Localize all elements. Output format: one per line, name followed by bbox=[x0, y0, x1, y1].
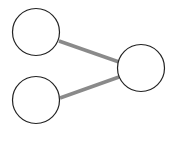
node-right bbox=[118, 45, 165, 92]
edge-bottom-left-to-right bbox=[60, 77, 119, 98]
node-bottom-left bbox=[13, 77, 60, 124]
graph-diagram bbox=[0, 0, 177, 143]
node-top-left bbox=[13, 9, 60, 56]
edge-top-left-to-right bbox=[59, 41, 119, 62]
